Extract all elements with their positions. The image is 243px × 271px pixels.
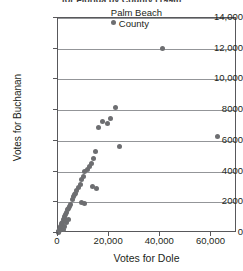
data-point	[94, 186, 99, 191]
y-tick-mark	[53, 17, 57, 18]
y-tick-mark	[53, 140, 57, 141]
data-point	[105, 121, 110, 126]
y-tick-mark	[53, 109, 57, 110]
data-point	[79, 177, 84, 182]
y-tick-label: 14,000	[195, 12, 243, 22]
y-tick-mark	[53, 201, 57, 202]
y-tick-label: 8000	[195, 104, 243, 114]
chart-title: for Florida by County (1996)	[0, 0, 243, 2]
y-tick-label: 2000	[195, 196, 243, 206]
data-point	[93, 149, 98, 154]
annotation-palm-beach-county: Palm Beach County	[105, 7, 162, 29]
x-tick-mark	[210, 232, 211, 236]
data-point	[160, 46, 165, 51]
y-tick-mark	[53, 48, 57, 49]
y-tick-mark	[53, 78, 57, 79]
data-point	[91, 156, 96, 161]
annotation-line-1: Palm Beach	[105, 7, 162, 18]
x-axis-title: Votes for Dole	[57, 252, 236, 264]
annotation-marker-dot	[111, 20, 116, 25]
scatter-plot-figure: for Florida by County (1996) Palm Beach …	[0, 0, 243, 271]
y-tick-label: 10,000	[195, 73, 243, 83]
data-point	[96, 125, 101, 130]
data-point	[108, 116, 113, 121]
data-point	[82, 201, 87, 206]
y-tick-mark	[53, 171, 57, 172]
x-tick-mark	[108, 232, 109, 236]
y-tick-label: 6000	[195, 135, 243, 145]
y-tick-label: 4000	[195, 166, 243, 176]
x-tick-mark	[159, 232, 160, 236]
x-tick-label: 60,000	[180, 236, 240, 246]
data-point	[62, 224, 67, 229]
data-point	[113, 105, 118, 110]
y-axis-title: Votes for Buchanan	[12, 48, 23, 188]
data-point	[66, 217, 71, 222]
data-point	[117, 144, 122, 149]
x-tick-mark	[57, 232, 58, 236]
y-tick-label: 12,000	[195, 43, 243, 53]
